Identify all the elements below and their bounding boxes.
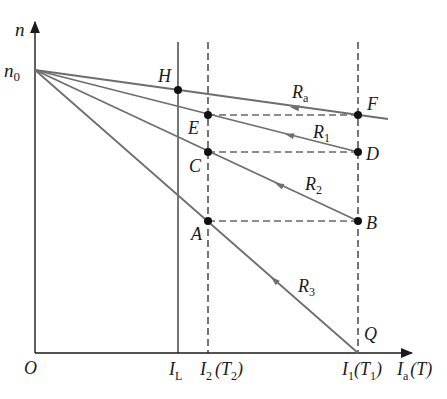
label-h: H	[157, 66, 172, 86]
label-d: D	[365, 144, 379, 164]
point-c	[204, 148, 212, 156]
point-b	[354, 217, 362, 225]
r1-label: R1	[312, 122, 330, 145]
label-q: Q	[364, 324, 377, 344]
il-label: IL	[168, 359, 182, 383]
r3-label: R3	[297, 276, 315, 299]
label-c: C	[189, 156, 202, 176]
label-f: F	[366, 94, 379, 114]
point-h	[174, 86, 182, 94]
x-axis-label: Ia(T)	[396, 359, 432, 383]
origin-label: O	[24, 358, 37, 378]
r1-arrow-icon	[284, 131, 294, 139]
point-d	[354, 148, 362, 156]
n0-label: n0	[4, 60, 20, 84]
point-a	[204, 217, 212, 225]
r2-label: R2	[304, 174, 322, 197]
i1-label: I1(T1)	[341, 359, 382, 383]
point-e	[204, 111, 212, 119]
r3-line	[35, 70, 358, 353]
ra-label: Ra	[291, 82, 309, 105]
r1-line	[35, 70, 358, 152]
i2-label: I2(T2)	[199, 359, 243, 383]
point-f	[354, 111, 362, 119]
y-axis-label: n	[15, 19, 25, 40]
label-b: B	[366, 213, 377, 233]
label-a: A	[190, 224, 203, 244]
label-e: E	[187, 118, 199, 138]
motor-characteristic-diagram: n n0 O IL I2(T2) I1(T1) Ia(T) Ra R1 R2 R…	[0, 0, 447, 399]
